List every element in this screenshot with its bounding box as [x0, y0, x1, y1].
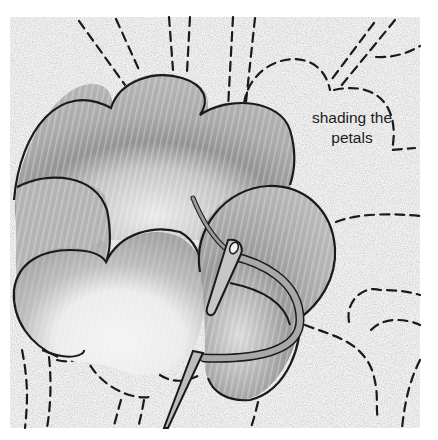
embroidery-illustration — [0, 0, 438, 440]
caption-line-1: shading the — [282, 108, 422, 128]
caption-line-2: petals — [282, 128, 422, 148]
caption: shading the petals — [282, 108, 422, 148]
